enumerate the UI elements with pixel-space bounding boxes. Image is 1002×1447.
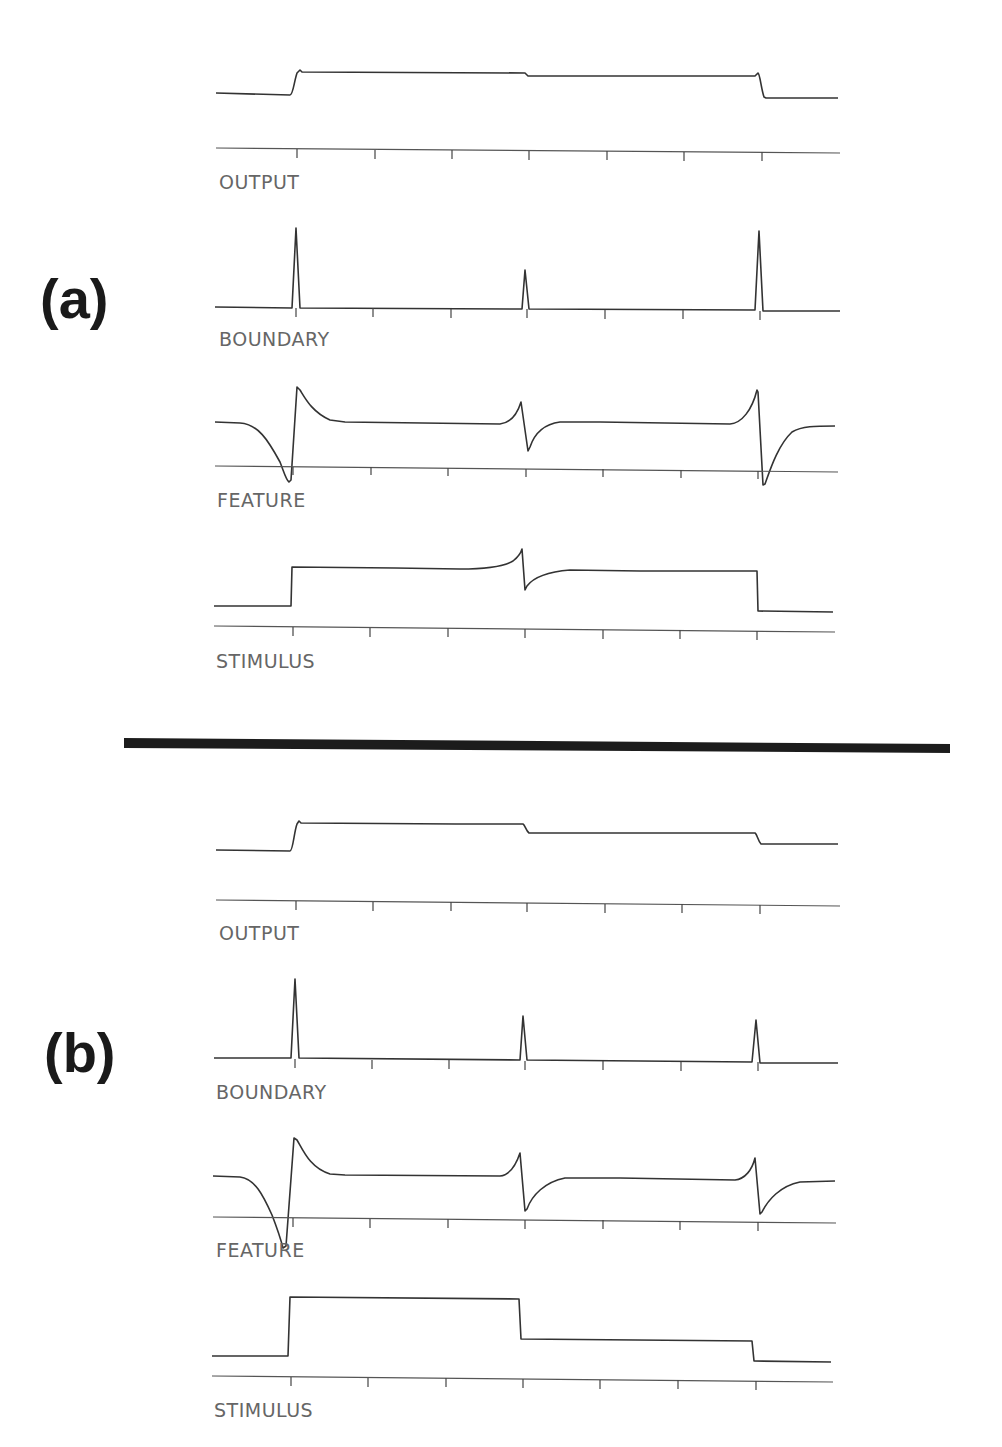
trace-stimulus-b: STIMULUS	[212, 1297, 833, 1421]
output-axis	[216, 900, 840, 906]
boundary-label: BOUNDARY	[216, 1081, 327, 1103]
panel-b: (b) OUTPUT	[44, 821, 840, 1421]
trace-stimulus-a: STIMULUS	[214, 549, 835, 672]
stimulus-label: STIMULUS	[214, 1399, 313, 1421]
trace-output-b: OUTPUT	[216, 821, 840, 944]
trace-feature-a: FEATURE	[215, 387, 838, 511]
trace-feature-b: FEATURE	[213, 1138, 836, 1261]
trace-boundary-a: BOUNDARY	[215, 228, 840, 350]
boundary-label: BOUNDARY	[219, 328, 330, 350]
panel-b-label: (b)	[44, 1021, 116, 1084]
trace-output-a: OUTPUT	[216, 70, 840, 193]
boundary-waveform	[215, 228, 840, 311]
panel-a: (a) OUTPUT	[40, 70, 840, 672]
figure-canvas: (a) OUTPUT	[0, 0, 1002, 1447]
output-label: OUTPUT	[219, 171, 299, 193]
stimulus-waveform	[214, 549, 833, 612]
feature-label: FEATURE	[216, 1239, 305, 1261]
feature-waveform	[215, 387, 835, 485]
output-waveform	[216, 821, 838, 851]
feature-waveform	[213, 1138, 835, 1248]
trace-boundary-b: BOUNDARY	[214, 979, 838, 1103]
output-waveform	[216, 70, 838, 98]
output-label: OUTPUT	[219, 922, 299, 944]
stimulus-waveform	[212, 1297, 831, 1362]
panel-a-label: (a)	[40, 267, 108, 330]
feature-label: FEATURE	[217, 489, 306, 511]
stimulus-label: STIMULUS	[216, 650, 315, 672]
boundary-waveform	[214, 979, 838, 1063]
panel-separator	[124, 738, 950, 753]
output-axis	[216, 148, 840, 153]
